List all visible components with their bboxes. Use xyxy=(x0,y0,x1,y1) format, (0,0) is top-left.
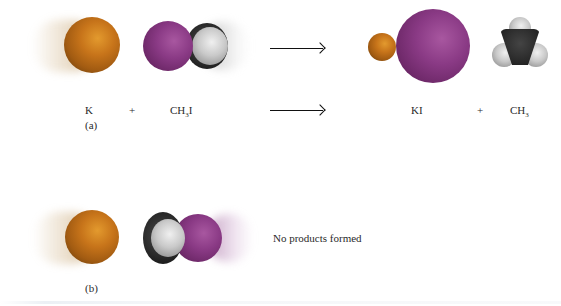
equation-arrow-icon xyxy=(270,110,323,111)
plus-sign-right: + xyxy=(477,104,483,116)
hydrogen-atom-icon xyxy=(192,27,228,65)
potassium-atom-icon xyxy=(65,210,119,264)
panel-b-label: (b) xyxy=(85,282,98,294)
product-ki-label: KI xyxy=(411,104,423,116)
reaction-arrow-icon xyxy=(270,48,323,49)
methyl-radical-icon xyxy=(492,17,550,75)
ch3i-main: CH xyxy=(170,104,185,116)
ch3-main: CH xyxy=(510,104,525,116)
plus-sign-left: + xyxy=(129,104,135,116)
reactant-ch3i-label: CH3I xyxy=(170,104,192,119)
hydrogen-atom-icon xyxy=(151,219,185,257)
potassium-atom-icon xyxy=(64,17,120,73)
panel-a-label: (a) xyxy=(85,119,97,131)
product-ch3-label: CH3 xyxy=(510,104,529,119)
iodine-atom-icon xyxy=(143,21,193,71)
ch3i-tail: I xyxy=(189,104,193,116)
potassium-ion-icon xyxy=(368,33,396,61)
ch3-subscript: 3 xyxy=(525,111,529,119)
no-products-label: No products formed xyxy=(273,232,362,244)
caption-remnant xyxy=(0,301,561,304)
reactant-k-label: K xyxy=(85,104,93,116)
iodide-ion-icon xyxy=(396,9,470,83)
